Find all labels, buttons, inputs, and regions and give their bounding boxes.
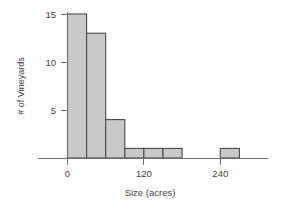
bar-series xyxy=(68,14,240,158)
bar-bin-60-90 xyxy=(106,120,125,158)
y-tick-label-15: 15 xyxy=(45,9,56,20)
histogram-canvas: 15 10 5 0 120 240 # of Vineyards Size (a… xyxy=(0,0,289,204)
y-axis-title: # of Vineyards xyxy=(16,57,26,115)
bar-bin-0-30 xyxy=(68,14,87,158)
bar-bin-150-180 xyxy=(163,148,182,158)
x-axis-title: Size (acres) xyxy=(125,187,176,198)
bar-bin-30-60 xyxy=(87,33,106,158)
bar-bin-90-120 xyxy=(125,148,144,158)
bar-bin-120-150 xyxy=(144,148,163,158)
histogram-figure: 15 10 5 0 120 240 # of Vineyards Size (a… xyxy=(0,0,289,204)
bar-bin-240-270 xyxy=(220,148,239,158)
y-tick-label-5: 5 xyxy=(51,105,56,116)
x-tick-label-0: 0 xyxy=(65,168,70,179)
y-tick-label-10: 10 xyxy=(45,57,56,68)
x-tick-marks xyxy=(68,159,221,166)
y-tick-marks xyxy=(61,14,68,110)
x-tick-label-120: 120 xyxy=(136,168,152,179)
x-tick-label-240: 240 xyxy=(212,168,228,179)
